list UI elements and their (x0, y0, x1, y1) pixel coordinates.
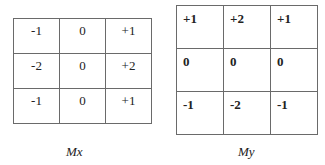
cell-value: 0 (60, 54, 105, 74)
my-row-2: 0 0 0 (177, 49, 318, 92)
cell-value: 0 (271, 49, 317, 70)
my-cell: +1 (271, 6, 318, 49)
cell-value: +1 (177, 6, 223, 27)
cell-value: 0 (224, 49, 270, 70)
mx-cell: +1 (106, 89, 152, 124)
mx-kernel-grid: -1 0 +1 -2 0 +2 -1 0 +1 (13, 18, 152, 124)
mx-row-2: -2 0 +2 (14, 54, 152, 89)
cell-value: 0 (177, 49, 223, 70)
cell-value: +1 (106, 89, 151, 109)
cell-value: -1 (271, 92, 317, 113)
cell-value: 0 (60, 89, 105, 109)
mx-row-3: -1 0 +1 (14, 89, 152, 124)
my-cell: 0 (271, 49, 318, 92)
cell-value: +2 (106, 54, 151, 74)
cell-value: -1 (14, 89, 59, 109)
cell-value: +2 (224, 6, 270, 27)
mx-cell: -1 (14, 89, 60, 124)
mx-cell: +1 (106, 19, 152, 54)
my-row-3: -1 -2 -1 (177, 92, 318, 135)
my-cell: 0 (177, 49, 224, 92)
cell-value: -2 (224, 92, 270, 113)
my-cell: -2 (224, 92, 271, 135)
my-row-1: +1 +2 +1 (177, 6, 318, 49)
mx-cell: 0 (60, 89, 106, 124)
mx-cell: +2 (106, 54, 152, 89)
my-cell: -1 (271, 92, 318, 135)
cell-value: -1 (177, 92, 223, 113)
cell-value: +1 (106, 19, 151, 39)
mx-cell: -1 (14, 19, 60, 54)
mx-cell: 0 (60, 54, 106, 89)
mx-cell: 0 (60, 19, 106, 54)
my-cell: 0 (224, 49, 271, 92)
cell-value: 0 (60, 19, 105, 39)
my-caption: My (238, 144, 255, 160)
mx-caption: Mx (66, 144, 83, 160)
mx-row-1: -1 0 +1 (14, 19, 152, 54)
cell-value: +1 (271, 6, 317, 27)
my-cell: +2 (224, 6, 271, 49)
cell-value: -1 (14, 19, 59, 39)
mx-cell: -2 (14, 54, 60, 89)
my-kernel-grid: +1 +2 +1 0 0 0 -1 -2 -1 (176, 5, 318, 135)
my-cell: +1 (177, 6, 224, 49)
my-cell: -1 (177, 92, 224, 135)
cell-value: -2 (14, 54, 59, 74)
